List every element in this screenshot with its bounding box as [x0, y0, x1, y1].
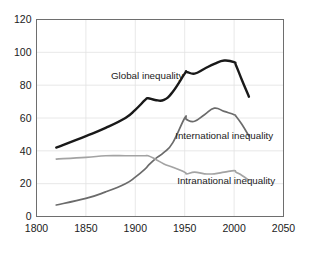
x-axis-tick-label: 1850: [74, 222, 98, 234]
y-axis-tick-label: 40: [20, 145, 32, 157]
x-axis-tick-label: 2050: [272, 222, 296, 234]
series-inline-label: Global inequality: [111, 70, 184, 81]
y-axis-tick-label: 0: [26, 210, 32, 222]
y-axis-tick-label: 80: [20, 79, 32, 91]
x-axis-tick-label: 1800: [25, 222, 49, 234]
y-axis-tick-label: 60: [20, 112, 32, 124]
x-axis-tick-labels: 180018501900195020002050: [25, 222, 296, 234]
series-inline-label: Intranational inequality: [177, 175, 275, 186]
gridlines: [37, 20, 284, 217]
x-axis-tick-label: 2000: [222, 222, 246, 234]
x-axis-tick-label: 1950: [173, 222, 197, 234]
y-axis-tick-labels: 020406080100120: [14, 13, 32, 222]
series-inline-label: International inequality: [175, 130, 273, 141]
inequality-line-chart: 020406080100120 180018501900195020002050…: [0, 0, 320, 254]
y-axis-tick-label: 120: [14, 13, 32, 25]
series-line-international-inequality: [56, 108, 249, 205]
x-axis-tick-label: 1900: [124, 222, 148, 234]
chart-canvas: 020406080100120 180018501900195020002050…: [0, 0, 320, 254]
y-axis-tick-label: 100: [14, 46, 32, 58]
y-axis-tick-label: 20: [20, 177, 32, 189]
